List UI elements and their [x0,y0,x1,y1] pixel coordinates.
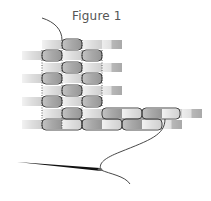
bead-row-8 [22,120,182,129]
beadwork-diagram [0,0,211,201]
bead-row-7 [42,109,202,118]
bead-rows [22,40,202,129]
needle-icon [17,162,103,171]
